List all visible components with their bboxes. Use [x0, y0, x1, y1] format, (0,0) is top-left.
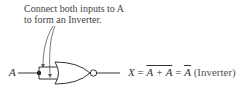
- annotation-arrows: [43, 26, 55, 76]
- output-equation: X = A + A = A (Inverter): [128, 66, 236, 78]
- inversion-bubble: [90, 70, 96, 76]
- nor-inverter-diagram: [0, 0, 247, 99]
- equals-1: =: [135, 66, 147, 78]
- equation-nor-expression: A + A: [146, 66, 172, 78]
- equation-lhs: X: [128, 66, 135, 78]
- nor-gate-body: [55, 62, 90, 84]
- equals-2: =: [172, 66, 184, 78]
- input-label-a: A: [9, 66, 16, 78]
- tied-inputs: [39, 67, 58, 79]
- equation-result: A: [184, 66, 191, 78]
- arrowheads: [41, 64, 52, 78]
- equation-note: (Inverter): [191, 66, 236, 78]
